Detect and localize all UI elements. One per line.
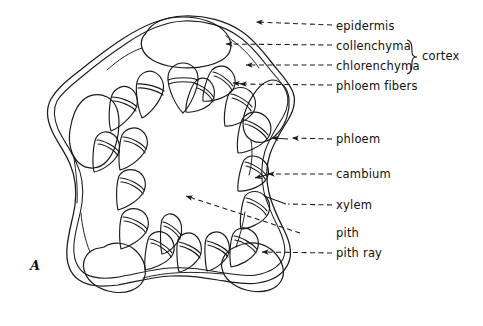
leader-collenchyma — [226, 44, 332, 45]
phloem-line — [245, 162, 266, 175]
leader-phloem — [292, 138, 332, 139]
label-phloem-fibers: phloem fibers — [336, 81, 418, 93]
bundle-outline — [177, 233, 201, 272]
pith-ray-bottom-left — [81, 213, 90, 252]
label-pith-ray: pith ray — [336, 248, 382, 260]
label-collenchyma: collenchyma — [336, 41, 411, 53]
vascular-bundle — [120, 209, 149, 249]
phloem-line — [207, 241, 229, 253]
leader-epidermis — [256, 22, 332, 25]
bundle-outline — [119, 128, 147, 170]
label-phloem: phloem — [336, 134, 380, 146]
leader-pith-ray — [262, 252, 332, 253]
cambium-line — [164, 226, 180, 239]
label-chlorenchyma: chlorenchyma — [336, 61, 420, 73]
label-cortex: cortex — [422, 51, 459, 63]
cambium-line — [124, 141, 145, 153]
vascular-bundle — [168, 63, 198, 113]
vascular-bundle — [238, 156, 269, 191]
vascular-bundle — [161, 214, 182, 254]
vascular-bundle — [93, 132, 119, 172]
cambium-line — [247, 202, 266, 215]
vascular-bundle — [203, 66, 235, 101]
vascular-bundle — [109, 86, 137, 131]
cambium-line — [180, 246, 200, 258]
cambium-line — [214, 76, 232, 90]
phloem-line — [123, 217, 147, 229]
leader-xylem — [288, 204, 332, 205]
cambium-line — [169, 82, 197, 84]
label-epidermis: epidermis — [336, 21, 395, 33]
vascular-bundle — [136, 71, 164, 118]
bundle-outline — [168, 63, 198, 113]
vascular-bundle — [177, 233, 201, 272]
bundle-outline — [205, 232, 229, 271]
cambium-line — [245, 124, 267, 139]
bundle-outline — [238, 156, 269, 191]
label-pith: pith — [336, 228, 359, 240]
vascular-bundle — [117, 170, 146, 210]
panel-label-a: A — [30, 258, 40, 273]
label-xylem: xylem — [336, 200, 372, 212]
arrow-phloem-inner — [272, 138, 288, 139]
bundle-outline — [203, 66, 235, 101]
label-cambium: cambium — [336, 169, 391, 181]
phloem-line — [246, 198, 267, 211]
bundle-outline — [186, 78, 215, 112]
stem-outline-group — [48, 16, 295, 293]
vascular-bundles — [93, 63, 271, 272]
vascular-bundle — [119, 128, 147, 170]
phloem-line — [168, 78, 198, 80]
pith-ray-top-left — [107, 48, 142, 70]
epidermis-outer-line — [48, 16, 295, 286]
cambium-line — [197, 88, 213, 102]
cambium-line — [121, 182, 143, 194]
bundle-outline — [161, 214, 182, 254]
bundle-outline — [136, 71, 163, 118]
cambium-line — [138, 88, 163, 95]
bundle-outline — [120, 209, 149, 249]
phloem-line — [120, 178, 144, 190]
vascular-bundle — [237, 112, 271, 153]
leader-phloem-fibers — [240, 84, 332, 85]
vascular-bundle — [186, 78, 215, 112]
phloem-line — [244, 120, 268, 135]
vascular-bundle — [205, 232, 229, 271]
pith-ray-top-right — [226, 36, 259, 68]
phloem-line — [123, 137, 146, 149]
phloem-line — [213, 72, 233, 86]
bundle-outline — [117, 170, 146, 210]
phloem-line — [231, 94, 252, 107]
cambium-line — [124, 221, 146, 233]
cambium-line — [113, 101, 136, 111]
collenchyma-lobe-top — [141, 17, 231, 68]
pith-ray-right-lower — [249, 140, 252, 175]
phloem-line — [179, 242, 201, 254]
